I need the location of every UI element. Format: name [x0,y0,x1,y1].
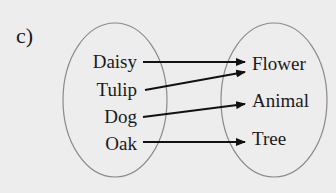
domain-item-oak: Oak [105,133,137,154]
codomain-item-tree: Tree [252,128,286,149]
domain-item-daisy: Daisy [93,51,138,72]
arrow-dog-animal [143,104,245,117]
mapping-diagram: c) Daisy Tulip Dog Oak Flower Animal Tre… [0,0,336,193]
part-label: c) [16,23,33,48]
codomain-item-flower: Flower [252,53,307,74]
domain-item-dog: Dog [104,106,137,127]
domain-item-tulip: Tulip [97,79,138,100]
arrow-tulip-flower [145,72,245,90]
codomain-item-animal: Animal [252,90,309,111]
